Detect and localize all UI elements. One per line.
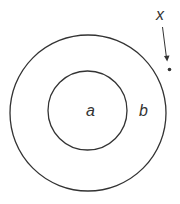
label-b: b <box>139 102 148 119</box>
concentric-circles-diagram: a b x <box>0 0 180 204</box>
arrow-shaft <box>163 27 167 58</box>
label-a: a <box>86 102 95 119</box>
point-x <box>168 68 172 72</box>
label-x: x <box>155 6 165 23</box>
arrow-head-icon <box>164 56 170 62</box>
